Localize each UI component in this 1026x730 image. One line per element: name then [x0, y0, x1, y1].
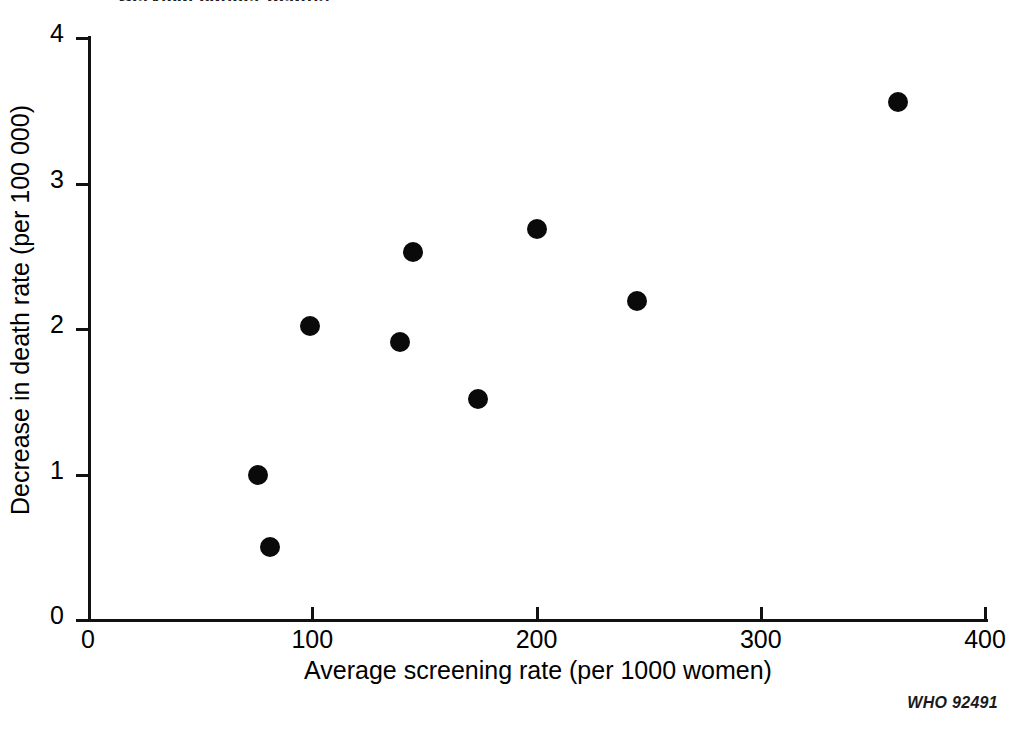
y-tick-label: 0: [50, 603, 64, 628]
chart-title-clipped: Cervical cancer deaths: [118, 0, 329, 1]
x-tick-label: 0: [81, 627, 95, 652]
plot-area: [88, 38, 985, 620]
x-tick-label: 300: [740, 627, 782, 652]
scatter-chart-figure: Cervical cancer deaths 01234 01002003004…: [0, 0, 1026, 730]
data-point: [527, 219, 547, 239]
x-tick-label: 200: [516, 627, 558, 652]
data-point: [627, 291, 647, 311]
x-axis-title: Average screening rate (per 1000 women): [88, 656, 988, 684]
y-tick-label: 1: [50, 458, 64, 483]
x-tick-label: 100: [291, 627, 333, 652]
figure-credit: WHO 92491: [907, 694, 998, 712]
y-tick-label: 2: [50, 312, 64, 337]
y-axis-title: Decrease in death rate (per 100 000): [1, 19, 39, 601]
data-point: [248, 465, 268, 485]
x-tick-label: 400: [964, 627, 1006, 652]
data-point: [403, 242, 423, 262]
data-point: [468, 389, 488, 409]
y-tick-label: 4: [50, 21, 64, 46]
y-tick-label: 3: [50, 167, 64, 192]
data-point: [300, 316, 320, 336]
data-point: [260, 537, 280, 557]
data-point: [390, 332, 410, 352]
data-point: [888, 92, 908, 112]
